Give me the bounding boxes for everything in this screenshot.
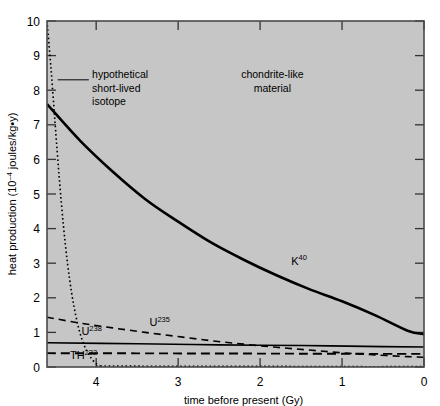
y-tick-label: 2 [33, 291, 40, 305]
y-tick-label: 6 [33, 153, 40, 167]
x-tick-label: 1 [339, 375, 346, 389]
hypothetical-isotope-annotation-line: short-lived [92, 82, 141, 94]
chart-figure: 012345678910 43210 K40U238U235TH232 hypo… [0, 0, 440, 406]
y-tick-label: 9 [33, 49, 40, 63]
hypothetical-isotope-annotation-line: hypothetical [92, 68, 148, 80]
y-tick-label: 10 [27, 15, 41, 29]
y-axis-label-text: heat production (10–4 joules/kg•y) [5, 113, 19, 276]
chondrite-material-annotation-line: chondrite-like [241, 68, 304, 80]
hypothetical-isotope-annotation-line: isotope [92, 95, 126, 107]
chondrite-material-annotation-line: material [254, 82, 291, 94]
y-tick-label: 1 [33, 326, 40, 340]
x-axis-label: time before present (Gy) [184, 394, 303, 406]
x-tick-label: 2 [257, 375, 264, 389]
y-tick-label: 4 [33, 222, 40, 236]
y-tick-label: 0 [33, 361, 40, 375]
x-tick-label: 0 [421, 375, 428, 389]
x-tick-label: 4 [93, 375, 100, 389]
heat-production-chart: 012345678910 43210 K40U238U235TH232 hypo… [0, 0, 440, 406]
y-tick-label: 7 [33, 118, 40, 132]
y-tick-label: 3 [33, 257, 40, 271]
y-tick-label: 5 [33, 188, 40, 202]
x-tick-label: 3 [175, 375, 182, 389]
y-axis-label: heat production (10–4 joules/kg•y) [5, 113, 19, 276]
y-tick-label: 8 [33, 84, 40, 98]
